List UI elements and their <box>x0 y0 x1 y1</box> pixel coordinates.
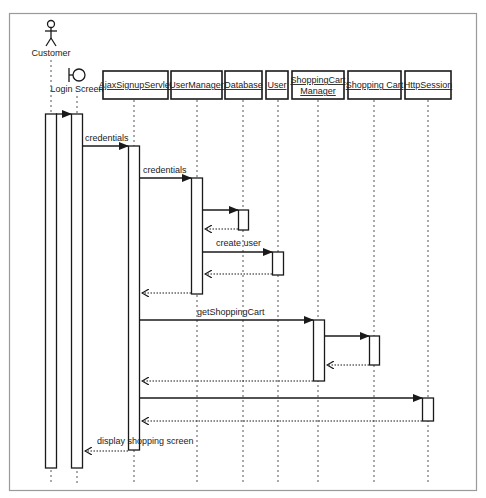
ajaxsignupservlet-label: AjaxSignupServlet <box>99 80 173 90</box>
shoppingcartmanager-label-line1: ShoppingCart <box>290 75 346 85</box>
database-label: Database <box>224 80 263 90</box>
shoppingcart-label: Shopping Cart <box>346 80 404 90</box>
httpsession-label: HttpSession <box>404 80 453 90</box>
servlet-activation <box>129 146 140 450</box>
msg-credentials-1-label: credentials <box>85 133 129 143</box>
scm-activation <box>314 320 325 381</box>
session-activation <box>423 398 434 421</box>
object-shoppingcart: Shopping Cart <box>346 71 404 99</box>
database-activation <box>239 210 249 230</box>
usermanager-label: UserManager <box>169 80 224 90</box>
object-httpsession: HttpSession <box>404 71 453 99</box>
object-user: User <box>266 71 288 99</box>
msg-getshoppingcart-label: getShoppingCart <box>197 307 265 317</box>
object-ajaxsignupservlet: AjaxSignupServlet <box>99 71 173 99</box>
object-shoppingcartmanager: ShoppingCart Manager <box>290 71 346 99</box>
msg-credentials-2-label: credentials <box>143 165 187 175</box>
shoppingcartmanager-label-line2: Manager <box>300 86 336 96</box>
user-label: User <box>267 80 286 90</box>
object-usermanager: UserManager <box>169 71 224 99</box>
customer-activation <box>46 114 57 468</box>
msg-display-shopping-screen-label: display shopping screen <box>97 436 194 446</box>
cart-activation <box>370 336 380 365</box>
customer-label: Customer <box>31 48 70 58</box>
object-database: Database <box>224 71 263 99</box>
user-activation <box>273 252 284 275</box>
login-activation <box>72 114 83 468</box>
sequence-diagram: Customer Login Screen AjaxSignupServlet … <box>0 0 486 498</box>
usermanager-activation <box>192 178 203 294</box>
msg-create-user-label: create user <box>216 238 261 248</box>
login-screen-label: Login Screen <box>50 84 103 94</box>
